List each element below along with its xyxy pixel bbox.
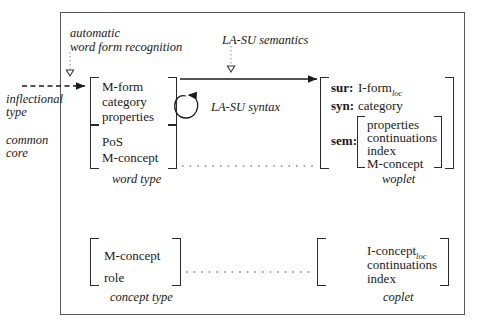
- coplet-row-index: index: [367, 271, 396, 286]
- caption-concept-type: concept type: [110, 290, 173, 305]
- coplet-row-i-concept-text: I-concept: [367, 243, 416, 258]
- woplet-sem-bracket-left: [357, 116, 365, 168]
- word-type-lower-bracket-right: [168, 125, 177, 169]
- annotation-la-su-syntax: LA-SU syntax: [211, 100, 280, 115]
- word-type-row-properties: properties: [102, 109, 154, 124]
- label-common-line2: core: [6, 146, 28, 161]
- woplet-value-sur: I-formloc: [358, 80, 402, 98]
- annotation-la-su-semantics: LA-SU semantics: [222, 33, 308, 48]
- annotation-automatic-line1: automatic: [70, 26, 120, 41]
- caption-coplet: coplet: [383, 290, 414, 305]
- concept-type-bracket-left: [90, 238, 99, 286]
- word-type-row-m-concept: M-concept: [102, 150, 158, 165]
- word-type-upper-bracket-left: [90, 77, 99, 125]
- woplet-value-sur-subscript: loc: [392, 88, 402, 98]
- word-type-upper-bracket-right: [168, 77, 177, 125]
- woplet-key-sur: sur:: [331, 80, 353, 95]
- word-type-row-m-form: M-form: [102, 79, 143, 94]
- caption-woplet: woplet: [382, 172, 415, 187]
- woplet-key-sem: sem:: [331, 133, 357, 148]
- concept-type-row-m-concept: M-concept: [104, 248, 160, 263]
- concept-type-row-role: role: [104, 270, 124, 285]
- coplet-bracket-right: [440, 238, 449, 286]
- woplet-value-syn: category: [358, 98, 403, 113]
- annotation-automatic-line2: word form recognition: [70, 40, 182, 55]
- word-type-lower-bracket-left: [90, 125, 99, 169]
- diagram-canvas: automatic word form recognition LA-SU se…: [0, 0, 489, 332]
- woplet-key-syn: syn:: [331, 98, 354, 113]
- word-type-row-pos: PoS: [102, 134, 123, 149]
- woplet-bracket-right: [445, 77, 454, 169]
- coplet-bracket-left: [317, 238, 326, 286]
- word-type-row-category: category: [102, 94, 147, 109]
- woplet-sem-row-m-concept: M-concept: [367, 156, 423, 171]
- concept-type-bracket-right: [172, 238, 181, 286]
- woplet-value-sur-text: I-form: [358, 80, 392, 95]
- woplet-bracket-left: [320, 77, 329, 169]
- label-inflectional-line2: type: [6, 105, 27, 120]
- caption-word-type: word type: [112, 172, 161, 187]
